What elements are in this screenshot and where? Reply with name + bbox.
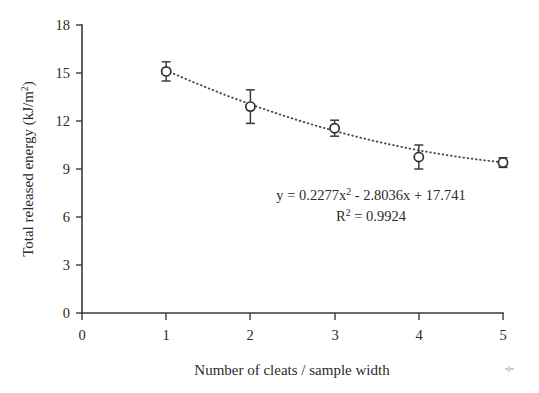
equation-rest: - 2.8036x + 17.741	[351, 187, 466, 203]
scan-artifact-mark	[505, 368, 514, 370]
x-axis-title: Number of cleats / sample width	[194, 362, 390, 378]
data-marker	[414, 152, 423, 161]
data-marker	[246, 102, 255, 111]
r-squared-prefix: R	[336, 208, 346, 224]
x-tick-label-5: 5	[499, 327, 506, 343]
data-point-5	[498, 158, 507, 168]
x-tick-label-1: 1	[162, 327, 169, 343]
data-series-layer	[162, 62, 508, 169]
data-point-1	[162, 62, 171, 81]
data-point-3	[330, 120, 339, 136]
y-axis-title-main: Total released energy (kJ/m	[20, 91, 37, 257]
equation-prefix: y = 0.2277x	[276, 187, 347, 203]
data-marker	[162, 67, 171, 76]
y-axis-ticks	[76, 25, 82, 313]
equation-annotation: y = 0.2277x2 - 2.8036x + 17.741	[276, 186, 465, 203]
y-tick-label-15: 15	[56, 65, 71, 81]
x-tick-label-2: 2	[246, 327, 253, 343]
data-point-2	[246, 90, 255, 124]
x-tick-label-4: 4	[415, 327, 423, 343]
r-squared-rest: = 0.9924	[351, 208, 407, 224]
r-squared-annotation: R2 = 0.9924	[336, 207, 407, 224]
y-tick-label-18: 18	[56, 17, 71, 33]
y-tick-label-9: 9	[63, 161, 70, 177]
y-tick-label-6: 6	[63, 209, 70, 225]
x-tick-label-0: 0	[78, 327, 85, 343]
data-point-4	[414, 145, 423, 169]
y-tick-label-0: 0	[63, 305, 70, 321]
y-tick-label-12: 12	[56, 113, 71, 129]
y-tick-label-3: 3	[63, 257, 70, 273]
data-marker	[330, 124, 339, 133]
y-axis-title: Total released energy (kJ/m2)	[19, 81, 37, 257]
data-marker	[498, 158, 507, 167]
x-axis-ticks	[82, 313, 503, 320]
x-tick-label-3: 3	[331, 327, 338, 343]
trendline-dotted	[166, 70, 503, 162]
scatter-plot: 0 3 6 9 12 15 18 0 1 2 3 4 5 Number of c…	[0, 0, 539, 393]
y-axis-title-tail: )	[20, 81, 37, 86]
chart-figure: 0 3 6 9 12 15 18 0 1 2 3 4 5 Number of c…	[0, 0, 539, 393]
